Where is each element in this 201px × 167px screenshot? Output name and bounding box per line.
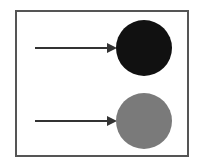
row-2 — [35, 93, 172, 149]
diagram-canvas — [0, 0, 201, 167]
gray-circle — [116, 93, 172, 149]
row-1 — [35, 20, 172, 76]
arrowhead-icon — [107, 116, 117, 126]
black-circle — [116, 20, 172, 76]
arrowhead-icon — [107, 43, 117, 53]
